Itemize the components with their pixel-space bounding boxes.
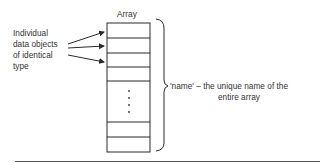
left-label-line-4: type [13, 61, 29, 71]
array-title: Array [117, 9, 137, 19]
left-label-line-2: data objects [13, 39, 58, 49]
right-label-line-2: entire array [218, 92, 260, 102]
left-label-line-1: Individual [13, 28, 48, 38]
array-box [107, 23, 150, 152]
curly-brace [156, 19, 168, 151]
right-label-line-1: 'name' – the unique name of the [170, 81, 288, 91]
left-label-line-3: of identical [13, 50, 53, 60]
pointer-arrows [68, 32, 104, 62]
ellipsis-dots [128, 90, 130, 113]
array-diagram: Array Individual data objects of identic… [0, 0, 324, 163]
